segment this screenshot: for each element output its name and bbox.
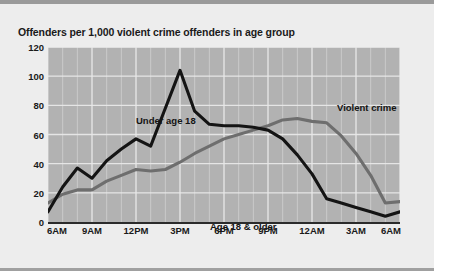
x-axis-tick: 9PM [258,225,278,236]
y-axis-tick: 0 [14,217,44,228]
annotation-under-age-18: Under age 18 [136,115,196,126]
x-axis-tick: 3AM [346,225,366,236]
x-axis-tick: 3PM [170,225,190,236]
page-title: Offenders per 1,000 violent crime offend… [18,26,295,38]
x-axis-line [48,222,400,224]
x-axis-tick: 12PM [124,225,149,236]
plot-area: Under age 18 Age 18 & older Violent crim… [48,47,400,222]
y-axis-tick: 60 [14,129,44,140]
x-axis-tick: 9AM [82,225,102,236]
bottom-divider [0,268,434,271]
chart-svg [48,47,400,222]
y-axis-tick: 120 [14,42,44,53]
y-axis-tick: 80 [14,100,44,111]
y-axis-tick: 20 [14,187,44,198]
y-axis-labels: 020406080100120 [12,47,44,222]
x-axis-tick: 6AM [381,225,401,236]
y-axis-tick: 40 [14,158,44,169]
chart-page: Offenders per 1,000 violent crime offend… [0,0,453,277]
top-divider [0,0,434,4]
x-axis-labels: 6AM9AM12PM3PM6PM9PM12AM3AM6AM [48,225,400,241]
x-axis-tick: 12AM [299,225,324,236]
x-axis-tick: 6PM [214,225,234,236]
y-axis-tick: 100 [14,71,44,82]
x-axis-tick: 6AM [47,225,67,236]
annotation-violent-crime: Violent crime [337,102,397,113]
